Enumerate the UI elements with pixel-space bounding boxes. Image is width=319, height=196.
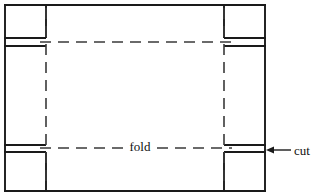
dashed-fold-lines xyxy=(40,8,232,188)
fold-label: fold xyxy=(130,139,151,154)
cut-label: cut xyxy=(294,143,310,158)
cut-arrow-head xyxy=(266,147,274,154)
solid-cut-lines xyxy=(4,4,266,192)
net-drawing: fold cut xyxy=(0,0,319,196)
cut-callout xyxy=(266,147,291,154)
box-net-diagram: fold cut xyxy=(0,0,319,196)
